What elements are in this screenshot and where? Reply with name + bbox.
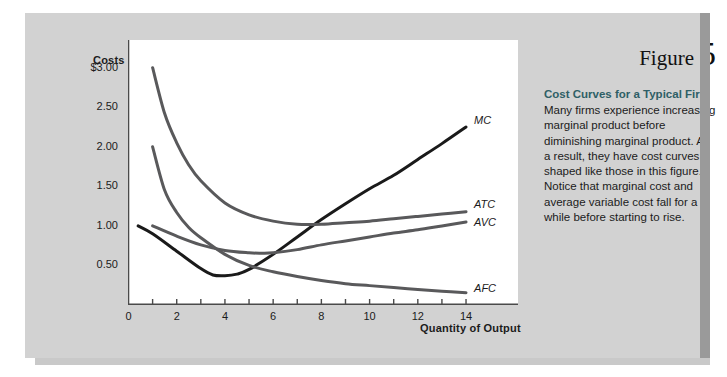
curve-label-mc: MC [474, 114, 491, 126]
y-tick-label: 0.50 [72, 258, 118, 270]
curve-label-afc: AFC [474, 282, 496, 294]
curve-label-avc: AVC [474, 216, 496, 228]
x-tick-label: 0 [117, 310, 141, 322]
x-tick-label: 12 [406, 310, 430, 322]
chart-area [128, 40, 518, 305]
cost-curves-chart [128, 40, 518, 305]
x-tick-label: 14 [454, 310, 478, 322]
x-tick-label: 4 [213, 310, 237, 322]
y-tick-label: 2.50 [72, 100, 118, 112]
caption-body: Many firms experience increasing margina… [544, 103, 716, 225]
figure-card: Costs Quantity of Output 0.501.001.502.0… [25, 13, 700, 358]
curve-label-atc: ATC [474, 198, 495, 210]
curve-atc [153, 68, 466, 225]
figure-heading: Figure5 [544, 37, 716, 71]
y-tick-label: 1.00 [72, 219, 118, 231]
x-tick-label: 6 [261, 310, 285, 322]
caption-title: Cost Curves for a Typical Firm [544, 87, 716, 102]
card-right-shadow [700, 13, 710, 358]
x-axis-title: Quantity of Output [420, 322, 521, 334]
card-bottom-shadow [35, 358, 710, 365]
x-tick-label: 8 [309, 310, 333, 322]
y-tick-label: 2.00 [72, 140, 118, 152]
curve-mc [138, 127, 466, 276]
x-tick-label: 2 [165, 310, 189, 322]
x-tick-label: 10 [358, 310, 382, 322]
figure-word: Figure [639, 46, 694, 70]
caption-column: Figure5 Cost Curves for a Typical Firm M… [544, 37, 716, 225]
curve-afc [153, 147, 466, 293]
y-tick-label: 1.50 [72, 179, 118, 191]
chart-plot-panel [128, 40, 518, 305]
y-tick-label: $3.00 [72, 61, 118, 73]
